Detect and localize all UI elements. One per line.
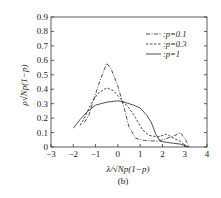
legend-label: :p=1	[163, 49, 180, 59]
y-axis-label: ρ√Np(1−p)	[19, 65, 29, 107]
series-line	[84, 63, 189, 147]
y-tick-label: 0.8	[37, 26, 49, 36]
series-group	[73, 63, 189, 147]
x-tick-label: −1	[91, 149, 101, 159]
chart: −3−2−10123400.10.20.30.40.50.60.70.80.9 …	[0, 0, 221, 198]
y-tick-label: 0.4	[37, 84, 49, 94]
series-line	[73, 101, 189, 147]
y-tick-label: 0.1	[37, 128, 48, 138]
legend: :p=0.1:p=0.3:p=1	[146, 29, 186, 59]
x-axis-label: λ/√Np(1−p)	[106, 164, 150, 174]
legend-label: :p=0.1	[163, 29, 186, 39]
x-tick-label: 2	[160, 149, 165, 159]
legend-label: :p=0.3	[163, 39, 186, 49]
y-tick-label: 0.2	[37, 113, 48, 123]
x-tick-label: −2	[68, 149, 78, 159]
x-tick-label: 1	[138, 149, 143, 159]
y-tick-label: 0.9	[37, 12, 49, 22]
chart-caption: (b)	[118, 176, 129, 186]
x-tick-label: 4	[205, 149, 210, 159]
x-tick-label: 3	[182, 149, 187, 159]
series-line	[80, 88, 187, 147]
y-tick-label: 0.6	[37, 55, 49, 65]
y-tick-label: 0.7	[37, 41, 49, 51]
y-tick-label: 0.5	[37, 70, 49, 80]
y-tick-label: 0.3	[37, 99, 49, 109]
x-tick-label: 0	[116, 149, 121, 159]
y-tick-label: 0	[44, 142, 49, 152]
